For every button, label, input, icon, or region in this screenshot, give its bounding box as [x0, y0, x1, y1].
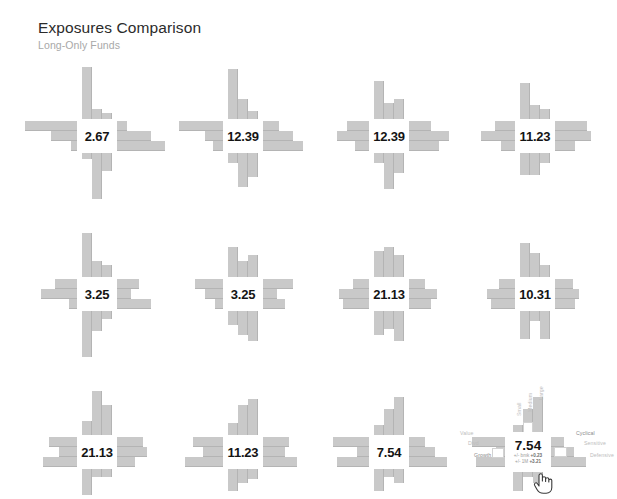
bar-segment — [193, 437, 223, 447]
bar-segment — [495, 121, 515, 131]
bar-segment — [339, 289, 369, 299]
bar-segment — [384, 153, 394, 189]
bar-segment — [520, 311, 530, 339]
axis-label-growth: Growth — [474, 452, 491, 458]
bar-segment — [195, 279, 223, 289]
bar-segment — [102, 265, 112, 277]
bar-segment — [487, 289, 515, 299]
axis-label-sensitive: Sensitive — [584, 440, 606, 446]
chart-panel[interactable]: 11.23 — [166, 374, 320, 499]
bar-segment — [555, 121, 587, 131]
bar-segment — [263, 447, 285, 457]
bar-segment — [117, 121, 127, 131]
bar-segment — [41, 289, 77, 299]
chart-panel[interactable]: 12.39 — [166, 58, 320, 218]
chart-panel[interactable]: 12.39 — [312, 58, 466, 218]
center-value: 3.25 — [85, 288, 110, 301]
bar-segment — [228, 311, 238, 325]
bar-segment — [205, 289, 223, 299]
chart-panel[interactable]: 3.25 — [166, 216, 320, 376]
bar-segment — [92, 261, 102, 277]
bar-segment — [374, 81, 384, 119]
bar-segment — [555, 299, 575, 309]
bar-segment — [409, 289, 437, 299]
bar-segment — [394, 153, 404, 173]
bar-segment — [540, 311, 550, 339]
center-value-plate: 11.23 — [515, 119, 555, 153]
bar-segment — [228, 247, 238, 277]
bar-segment — [374, 311, 384, 335]
bar-segment — [394, 99, 404, 119]
chart-panel[interactable]: 10.31 — [458, 216, 612, 376]
bar-segment — [92, 469, 102, 477]
axis-label-large: Large — [538, 386, 544, 400]
page-subtitle: Long-Only Funds — [38, 39, 120, 51]
chart-panel[interactable]: 21.13 — [20, 374, 174, 499]
bar-segment — [215, 299, 223, 309]
bar-segment — [185, 457, 223, 467]
axis-label-small: Small — [516, 403, 522, 416]
center-value: 21.13 — [373, 288, 405, 301]
chart-panel[interactable]: 11.23 — [458, 58, 612, 218]
center-value: 21.13 — [81, 446, 113, 459]
bar-segment — [248, 153, 258, 177]
bar-segment — [228, 69, 238, 119]
pinwheel-chart: 10.31 — [458, 216, 612, 376]
pinwheel-chart: 21.13 — [312, 216, 466, 376]
bar-segment — [228, 423, 238, 435]
axis-label-defensive: Defensive — [590, 452, 614, 458]
bar-segment — [520, 83, 530, 119]
bar-segment — [263, 279, 293, 289]
bar-segment — [263, 289, 277, 299]
bar-segment — [179, 121, 223, 131]
center-value-plate: 21.13 — [369, 277, 409, 311]
bar-segment — [333, 437, 369, 447]
bar-segment — [102, 311, 112, 319]
bar-segment — [238, 153, 248, 187]
highlighted-segment — [492, 448, 504, 458]
center-value-plate: 10.31 — [515, 277, 555, 311]
bar-segment — [520, 243, 530, 277]
bar-segment — [117, 279, 139, 289]
center-value: 12.39 — [227, 130, 259, 143]
bar-segment — [92, 109, 102, 119]
center-value: 10.31 — [519, 288, 551, 301]
detail-delta-1m: +/- 1M +3.21 — [515, 459, 541, 465]
bar-segment — [82, 153, 92, 159]
bar-segment — [347, 121, 369, 131]
bar-segment — [384, 311, 394, 329]
chart-panel[interactable]: 3.25 — [20, 216, 174, 376]
chart-panel[interactable]: 2.67 — [20, 58, 174, 218]
pinwheel-chart: 3.25 — [20, 216, 174, 376]
bar-segment — [499, 279, 515, 289]
bar-segment — [530, 311, 540, 321]
bar-segment — [248, 111, 258, 119]
bar-segment — [394, 255, 404, 277]
bar-segment — [238, 311, 248, 335]
bar-segment — [409, 279, 425, 289]
bar-segment — [59, 447, 77, 457]
bar-segment — [117, 457, 135, 467]
axis-label-divd: Divd — [468, 440, 479, 446]
pinwheel-chart: 2.67 — [20, 58, 174, 218]
bar-segment — [409, 121, 431, 131]
bar-segment — [343, 299, 369, 309]
bar-segment — [213, 141, 223, 151]
chart-panel[interactable]: 7.54 — [312, 374, 466, 499]
bar-segment — [409, 131, 449, 141]
pinwheel-chart: 11.23 — [458, 58, 612, 218]
bar-segment — [263, 121, 279, 131]
axis-label-value: Value — [460, 430, 473, 436]
bar-segment — [353, 279, 369, 289]
chart-panel[interactable]: 21.13 — [312, 216, 466, 376]
bar-segment — [540, 109, 550, 119]
center-value-plate: 12.39 — [369, 119, 409, 153]
bar-segment — [248, 311, 258, 341]
pinwheel-chart: 7.54 — [312, 374, 466, 499]
bar-segment — [238, 405, 248, 435]
center-value: 7.54 — [377, 446, 402, 459]
bar-segment — [409, 141, 439, 151]
bar-segment — [263, 141, 303, 151]
bar-segment — [409, 457, 447, 467]
bar-segment — [117, 437, 143, 447]
